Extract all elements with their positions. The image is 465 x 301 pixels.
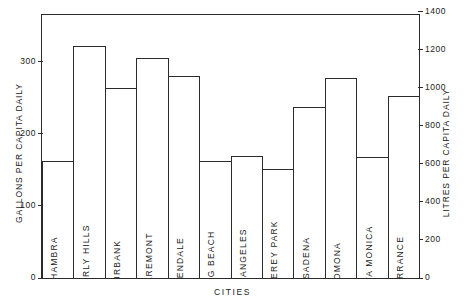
bar-series: ALHAMBRABEVERLY HILLSBURBANKCLAREMONTGLE… — [42, 15, 419, 278]
bar-category-label: POMONA — [333, 242, 342, 278]
bar: ALHAMBRA — [42, 161, 75, 278]
bar-category-label: PASADENA — [301, 236, 310, 278]
y-tick-label-right: 800 — [425, 120, 441, 130]
y-tick-label-left: 0 — [31, 272, 36, 282]
bar-category-label: BURBANK — [113, 239, 122, 278]
bar: BURBANK — [105, 88, 138, 278]
bar-category-label: LOS ANGELES — [238, 228, 247, 278]
bar: TORRANCE — [388, 96, 421, 278]
bar-category-label: MONTEREY PARK — [270, 220, 279, 278]
bar: PASADENA — [293, 107, 326, 278]
y-tick-label-left: 300 — [20, 56, 36, 66]
bar: SANTA MONICA — [356, 157, 389, 278]
x-axis-label: CITIES — [0, 287, 465, 297]
y-axis-label-left: GALLONS PER CAPITA DAILY — [14, 53, 24, 253]
plot-area: 0100200300 0200400600800100012001400 ALH… — [41, 14, 420, 279]
bar: GLENDALE — [168, 76, 201, 278]
bar-category-label: CLAREMONT — [144, 232, 153, 278]
bar-category-label: BEVERLY HILLS — [81, 224, 90, 278]
bar-category-label: LONG BEACH — [207, 230, 216, 278]
y-tick-right — [418, 11, 423, 12]
bar-category-label: TORRANCE — [395, 235, 404, 278]
bar: CLAREMONT — [136, 58, 169, 278]
y-tick-label-right: 200 — [425, 234, 441, 244]
y-tick-label-right: 600 — [425, 158, 441, 168]
bar-category-label: SANTA MONICA — [364, 225, 373, 278]
y-tick-label-right: 0 — [425, 272, 430, 282]
bar: MONTEREY PARK — [262, 169, 295, 278]
bar: BEVERLY HILLS — [73, 46, 106, 278]
y-tick-label-right: 1400 — [425, 6, 446, 16]
bar: LOS ANGELES — [231, 156, 264, 278]
y-tick-label-left: 200 — [20, 128, 36, 138]
bar-chart-figure: GALLONS PER CAPITA DAILY LITRES PER CAPI… — [0, 0, 465, 301]
bar: POMONA — [325, 78, 358, 278]
y-tick-label-left: 100 — [20, 200, 36, 210]
bar: LONG BEACH — [199, 161, 232, 278]
y-tick-label-right: 1000 — [425, 82, 446, 92]
bar-category-label: ALHAMBRA — [50, 236, 59, 278]
bar-category-label: GLENDALE — [176, 237, 185, 278]
y-tick-label-right: 400 — [425, 196, 441, 206]
y-tick-label-right: 1200 — [425, 44, 446, 54]
